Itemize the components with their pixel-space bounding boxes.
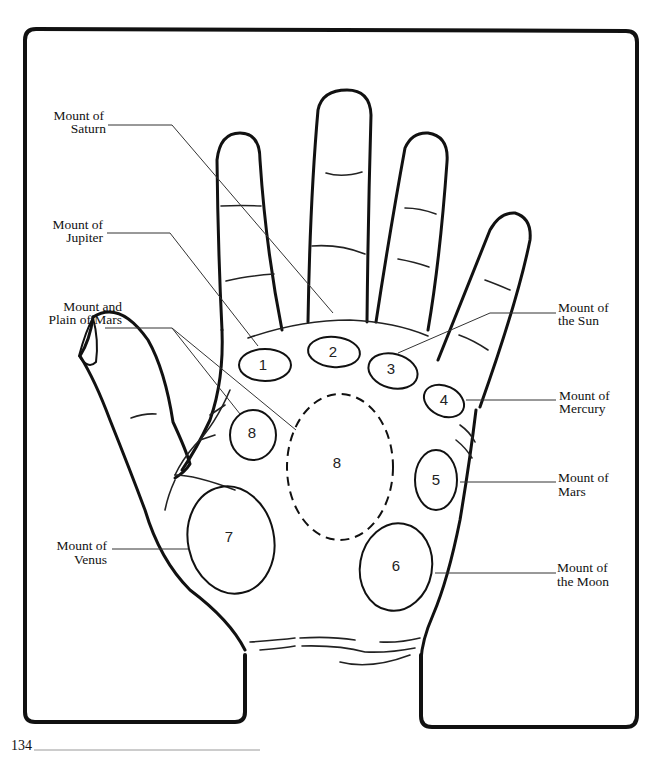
mount-number: 8 (248, 424, 256, 441)
wrist-crease (250, 637, 420, 642)
mount-number: 5 (432, 471, 440, 488)
label-moon-line1: Mount of (557, 560, 608, 575)
palm-left-edge (182, 330, 222, 470)
page-number: 134 (11, 738, 32, 753)
index-finger (217, 133, 282, 330)
mount-number: 1 (259, 356, 267, 373)
label-venus-line1: Mount of (56, 538, 107, 553)
label-mars-line1: Mount of (558, 470, 609, 485)
palmistry-diagram: 1 2 3 4 5 6 7 8 8 Mount of Saturn Mount … (0, 0, 648, 757)
label-jupiter-line2: Jupiter (66, 230, 103, 245)
label-saturn-line2: Saturn (71, 121, 106, 136)
label-mercury-line2: Mercury (559, 401, 606, 416)
mount-number: 4 (440, 391, 448, 408)
mount-number: 2 (329, 343, 337, 360)
mount-number: 3 (387, 360, 395, 377)
finger-creases (131, 172, 510, 665)
hand-outline (79, 90, 530, 660)
frame-border (25, 29, 637, 727)
mount-number: 7 (225, 528, 233, 545)
label-moon-line2: the Moon (557, 574, 609, 589)
palm-right-edge (421, 410, 476, 660)
thumb (93, 312, 190, 478)
palm-top-crease (248, 320, 428, 338)
label-mars-plain-line2: Plain of Mars (49, 312, 123, 327)
ring-finger (376, 133, 447, 330)
label-sun-line2: the Sun (558, 313, 599, 328)
label-mars-line2: Mars (558, 484, 586, 499)
middle-finger (308, 90, 371, 322)
mount-number: 6 (392, 557, 400, 574)
little-finger (438, 213, 530, 407)
mount-number: 8 (333, 454, 341, 471)
label-venus-line2: Venus (74, 552, 107, 567)
leader-jupiter (107, 233, 258, 346)
